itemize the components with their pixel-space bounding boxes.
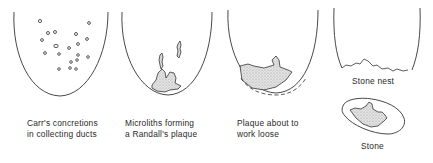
caption-carr-concretions: Carr's concretionsin collecting ducts (27, 118, 98, 139)
microlith (159, 53, 163, 69)
concretions (38, 19, 90, 70)
caption-stone-nest: Stone nest (352, 76, 394, 87)
papilla-stone-nest (334, 8, 420, 71)
caption-stone: Stone (361, 141, 384, 152)
papilla-carr-concretions (14, 12, 108, 96)
stone-core (350, 102, 387, 127)
papilla-microliths (122, 12, 212, 95)
randalls-plaque (152, 69, 181, 92)
stone (342, 98, 404, 134)
nest-surface (342, 59, 408, 71)
caption-plaque-loose: Plaque about towork loose (237, 118, 299, 139)
microlith (177, 41, 181, 58)
caption-microliths: Microliths forminga Randall's plaque (125, 118, 197, 139)
plaque (240, 56, 292, 90)
renal-stone-formation-diagram: Carr's concretionsin collecting ducts Mi… (0, 0, 433, 163)
papilla-plaque-loose (228, 10, 318, 95)
